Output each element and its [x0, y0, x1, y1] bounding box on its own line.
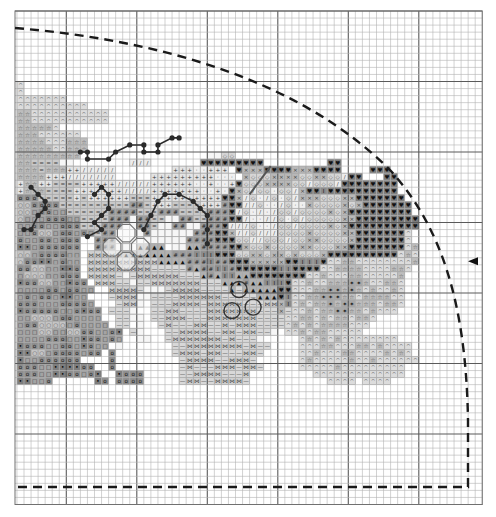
stitch-symbol: ⋈ — [166, 315, 172, 321]
stitch-cell-circle: o — [59, 223, 66, 230]
stitch-symbol: × — [293, 252, 298, 258]
stitch-cell-star: ☆ — [320, 272, 327, 279]
stitch-cell-caret: ^ — [306, 328, 313, 335]
stitch-cell-plus: + — [165, 173, 172, 180]
stitch-cell-hash: # — [109, 230, 116, 237]
stitch-cell-ibeam: I — [207, 251, 214, 258]
stitch-cell-caret: ^ — [377, 356, 384, 363]
stitch-cell-slash: / — [257, 230, 264, 237]
stitch-symbol: — — [180, 378, 186, 384]
stitch-symbol: — — [180, 266, 186, 272]
stitch-cell-caret: ^ — [38, 110, 45, 117]
stitch-symbol: + — [124, 195, 129, 201]
stitch-cell-bowtie: ⋈ — [193, 300, 200, 307]
stitch-symbol: ♥ — [244, 160, 249, 166]
stitch-cell-star: ☆ — [369, 293, 376, 300]
stitch-symbol: ^ — [328, 336, 333, 342]
stitch-cell-white — [158, 230, 165, 237]
stitch-cell-white — [144, 293, 151, 300]
stitch-symbol: ☆ — [342, 294, 347, 300]
stitch-cell-caret: ^ — [45, 96, 52, 103]
stitch-symbol: ♥ — [349, 181, 354, 187]
stitch-symbol: ♥ — [349, 252, 354, 258]
stitch-cell-caret: ^ — [355, 293, 362, 300]
stitch-cell-star: ☆ — [313, 328, 320, 335]
stitch-cell-heart: ♥ — [285, 286, 292, 293]
stitch-cell-heart: ♥ — [327, 251, 334, 258]
stitch-cell-caret: ^ — [362, 272, 369, 279]
stitch-symbol: □ — [18, 322, 23, 328]
stitch-cell-heart: ♥ — [384, 201, 391, 208]
stitch-symbol: · — [302, 202, 304, 208]
stitch-cell-bowtie: ⋈ — [158, 272, 165, 279]
stitch-symbol: • — [19, 357, 22, 363]
stitch-cell-heart: ♥ — [355, 180, 362, 187]
stitch-symbol: • — [54, 364, 57, 370]
stitch-symbol: ◇ — [314, 252, 319, 258]
stitch-cell-circle: o — [45, 286, 52, 293]
stitch-cell-diamond: ◇ — [320, 194, 327, 201]
stitch-symbol: ☆ — [349, 273, 354, 279]
stitch-symbol: ^ — [286, 329, 291, 335]
stitch-symbol: × — [349, 230, 354, 236]
stitch-cell-diamond: ◇ — [348, 201, 355, 208]
stitch-symbol: ☆ — [25, 167, 30, 173]
stitch-symbol: = — [32, 160, 37, 166]
stitch-cell-cross: × — [313, 237, 320, 244]
stitch-cell-square: □ — [24, 328, 31, 335]
stitch-symbol: ☆ — [67, 146, 72, 152]
stitch-symbol: ◇ — [251, 195, 256, 201]
stitch-cell-ring: ○ — [59, 321, 66, 328]
stitch-cell-caret: ^ — [369, 364, 376, 371]
stitch-cell-dark-dot: • — [17, 356, 24, 363]
stitch-cell-circle: o — [38, 223, 45, 230]
stitch-cell-dash: — — [264, 342, 271, 349]
stitch-cell-dark-dot: • — [80, 307, 87, 314]
stitch-symbol: — — [243, 343, 249, 349]
stitch-cell-star: ☆ — [369, 356, 376, 363]
stitch-cell-white — [137, 300, 144, 307]
stitch-cell-triangle: ▲ — [214, 272, 221, 279]
stitch-symbol: o — [61, 315, 65, 321]
flower-petal — [103, 238, 121, 256]
stitch-symbol: ⋈ — [180, 336, 186, 342]
stitch-symbol: # — [180, 252, 185, 258]
stitch-cell-bowtie: ⋈ — [130, 286, 137, 293]
stitch-cell-bowtie: ⋈ — [116, 293, 123, 300]
stitch-symbol: # — [138, 202, 143, 208]
stitch-symbol: ♥ — [392, 202, 397, 208]
stitch-symbol: ⋈ — [187, 294, 193, 300]
stitch-cell-square: □ — [102, 335, 109, 342]
stitch-symbol: — — [152, 301, 158, 307]
stitch-symbol: + — [159, 181, 164, 187]
stitch-cell-equals: = — [66, 201, 73, 208]
stitch-symbol: — — [279, 315, 285, 321]
stitch-cell-square: □ — [38, 335, 45, 342]
stitch-symbol: □ — [46, 371, 51, 377]
stitch-symbol: ^ — [378, 350, 383, 356]
stitch-symbol: ⋈ — [180, 287, 186, 293]
stitch-symbol: ☆ — [335, 301, 340, 307]
stitch-cell-caret: ^ — [398, 258, 405, 265]
stitch-cell-dot: · — [278, 194, 285, 201]
stitch-symbol: ▲ — [223, 280, 228, 286]
stitch-cell-bowtie: ⋈ — [186, 364, 193, 371]
flower-petal — [117, 253, 135, 271]
stitch-symbol: ☆ — [32, 167, 37, 173]
stitch-cell-heart: ♥ — [369, 201, 376, 208]
stitch-symbol: ^ — [349, 322, 354, 328]
stitch-cell-slash: / — [123, 180, 130, 187]
stitch-symbol: ⋈ — [138, 273, 144, 279]
stitch-symbol: ^ — [385, 364, 390, 370]
stitch-cell-star: ☆ — [38, 145, 45, 152]
stitch-cell-star: ☆ — [17, 159, 24, 166]
stitch-symbol: ^ — [392, 357, 397, 363]
stitch-cell-heart: ♥ — [214, 159, 221, 166]
stitch-symbol: ⋈ — [180, 294, 186, 300]
stitch-cell-square: □ — [52, 258, 59, 265]
stitch-cell-heart: ♥ — [327, 159, 334, 166]
stitch-cell-heart: ♥ — [398, 237, 405, 244]
stitch-symbol: ⋈ — [109, 273, 115, 279]
stitch-cell-equals: = — [73, 201, 80, 208]
stitch-cell-caret: ^ — [313, 335, 320, 342]
